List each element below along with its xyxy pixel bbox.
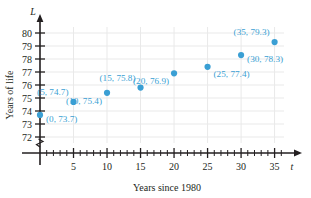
x-axis-tick-label: 10 — [102, 161, 112, 172]
x-axis-tick-label: 20 — [169, 161, 179, 172]
y-axis-tick-label: 80 — [22, 28, 32, 39]
data-point-label: (10, 75.4) — [66, 96, 102, 106]
y-axis-tick-label: 72 — [22, 132, 32, 143]
data-point-label: (5, 74.7) — [37, 87, 68, 97]
data-point-label: (15, 75.8) — [100, 73, 136, 83]
y-axis-tick-label: 77 — [22, 67, 32, 78]
data-point — [171, 70, 177, 76]
data-point — [238, 52, 244, 58]
data-point — [271, 39, 277, 45]
data-point-label: (20, 76.9) — [133, 76, 169, 86]
y-axis-tick-labels: 727374757677787980 — [22, 28, 32, 143]
chart-canvas: 5101520253035 727374757677787980 (0, 73.… — [0, 0, 311, 198]
data-point — [104, 90, 110, 96]
data-point — [204, 64, 210, 70]
data-point-label: (30, 78.3) — [247, 54, 283, 64]
data-point-label: (0, 73.7) — [46, 114, 77, 124]
y-axis-tick-label: 74 — [22, 106, 32, 117]
y-axis-tick-label: 79 — [22, 41, 32, 52]
data-point — [37, 112, 43, 118]
y-axis-tick-label: 76 — [22, 80, 32, 91]
x-axis-tick-label: 35 — [270, 161, 280, 172]
x-axis-tick-label: 25 — [203, 161, 213, 172]
y-axis-title: Years of life — [4, 70, 15, 120]
data-point-label: (35, 79.3) — [234, 27, 270, 37]
life-expectancy-scatter-chart: 5101520253035 727374757677787980 (0, 73.… — [0, 0, 311, 198]
y-axis-variable-label: L — [29, 6, 36, 17]
y-axis-tick-label: 75 — [22, 93, 32, 104]
x-axis-tick-label: 5 — [71, 161, 76, 172]
y-axis-tick-label: 73 — [22, 119, 32, 130]
x-axis-tick-label: 30 — [236, 161, 246, 172]
data-point-label: (25, 77.4) — [214, 69, 250, 79]
x-axis-tick-label: 15 — [136, 161, 146, 172]
y-axis-tick-label: 78 — [22, 54, 32, 65]
x-axis-title: Years since 1980 — [133, 182, 201, 193]
x-axis-variable-label: t — [291, 161, 294, 172]
